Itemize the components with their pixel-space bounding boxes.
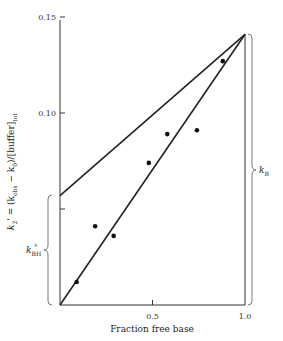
data-point [74, 280, 79, 285]
data-point [221, 59, 226, 64]
y-tick-label: 0.15 [38, 13, 56, 22]
bracket-label-kb: kB [259, 165, 269, 177]
x-tick-label: 0.5 [146, 312, 159, 321]
axes [60, 20, 245, 305]
bracket-label-kbh: kBH+ [26, 241, 41, 257]
data-point [165, 132, 170, 137]
data-point [93, 224, 98, 229]
tick-marks: 0.150.100.51.0 [38, 13, 251, 321]
x-axis-title: Fraction free base [110, 324, 194, 334]
x-tick-label: 1.0 [239, 312, 252, 321]
y-axis-title: k2' = (kobs − k0)/[buffer]tot [6, 113, 18, 230]
data-point [147, 161, 152, 166]
fit-line [60, 34, 245, 305]
data-point [111, 234, 116, 239]
right-bracket [248, 34, 256, 305]
left-bracket [44, 195, 52, 305]
y-tick-label: 0.10 [38, 109, 56, 118]
fit-line [60, 34, 245, 195]
fit-lines [60, 34, 245, 305]
data-point [195, 128, 200, 133]
chart: 0.150.100.51.0 kBH+ kB k2' = (kobs − k0)… [0, 0, 283, 341]
